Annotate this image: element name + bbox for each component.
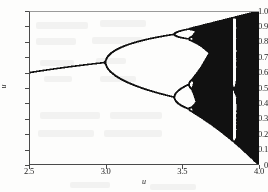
x-axis-label: u <box>142 177 146 186</box>
y-axis-label: u <box>0 85 8 89</box>
y-tick-mark <box>25 42 29 43</box>
bleed-artifact <box>70 182 110 188</box>
y-tick-mark <box>25 134 29 135</box>
y-tick-label: 0.5 <box>242 84 268 93</box>
y-tick-label: 0.3 <box>242 114 268 123</box>
y-tick-label: 0.7 <box>242 53 268 62</box>
y-tick-mark <box>25 73 29 74</box>
x-tick-mark <box>29 165 30 169</box>
y-tick-mark <box>25 150 29 151</box>
y-tick-label: 1.0 <box>242 7 268 16</box>
x-tick-mark <box>106 165 107 169</box>
y-tick-mark <box>25 119 29 120</box>
x-tick-mark <box>182 165 183 169</box>
x-tick-mark <box>259 165 260 169</box>
bleed-artifact <box>150 184 196 190</box>
y-tick-mark <box>25 26 29 27</box>
y-tick-mark <box>25 11 29 12</box>
y-tick-mark <box>25 57 29 58</box>
y-tick-label: 0.9 <box>242 22 268 31</box>
y-tick-mark <box>25 103 29 104</box>
y-tick-label: 0.8 <box>242 37 268 46</box>
y-tick-mark <box>25 88 29 89</box>
y-tick-label: 0.1 <box>242 145 268 154</box>
bifurcation-plot <box>29 11 259 165</box>
y-tick-label: 0.4 <box>242 99 268 108</box>
bifurcation-figure: 00.10.20.30.40.50.60.70.80.91.0 2.53.03.… <box>0 0 268 192</box>
y-tick-label: 0.2 <box>242 130 268 139</box>
y-tick-label: 0.6 <box>242 68 268 77</box>
